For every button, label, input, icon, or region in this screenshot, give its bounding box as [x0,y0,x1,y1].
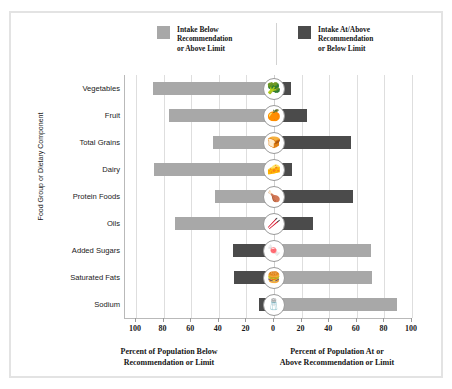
bar-segment-left [153,82,274,95]
bar-segment-left [154,163,274,176]
x-axis-tick-label: 20 [286,324,316,333]
tick-mark [411,318,412,322]
x-axis-tick-label: 80 [148,324,178,333]
protein-icon: 🍗 [263,186,285,208]
added-sugars-icon: 🍬 [263,240,285,262]
saturated-fats-icon: 🍔 [263,267,285,289]
sodium-icon: 🧂 [263,294,285,316]
category-label: Added Sugars [24,246,120,255]
broccoli-icon: 🥦 [263,78,285,100]
x-axis-tick-label: 40 [313,324,343,333]
x-axis-tick-label: 80 [368,324,398,333]
plot-wrapper: Food Group or Dietary Component Vegetabl… [11,13,445,380]
tick-mark [190,318,191,322]
grains-icon: 🍞 [263,132,285,154]
bar-row: 🥦 [125,75,412,102]
bar-segment-right [274,271,372,284]
category-label: Oils [24,219,120,228]
x-axis-tick-label: 40 [203,324,233,333]
tick-mark [245,318,246,322]
bar-row: 🍔 [125,264,412,291]
gridline [412,75,413,318]
tick-mark [383,318,384,322]
bar-row: 🥢 [125,210,412,237]
bar-segment-right [274,298,397,311]
category-label: Protein Foods [24,192,120,201]
bar-segment-left [169,109,274,122]
tick-mark [135,318,136,322]
category-label: Vegetables [24,84,120,93]
x-axis-tick-label: 20 [230,324,260,333]
bar-row: 🍞 [125,129,412,156]
tick-mark [218,318,219,322]
dairy-icon: 🧀 [263,159,285,181]
bar-row: 🍗 [125,183,412,210]
tick-mark [163,318,164,322]
x-axis-tick-label: 100 [120,324,150,333]
bar-row: 🧀 [125,156,412,183]
category-label: Dairy [24,165,120,174]
category-label: Fruit [24,111,120,120]
category-label: Total Grains [24,138,120,147]
fruit-icon: 🍊 [263,105,285,127]
bar-segment-right [274,244,371,257]
tick-mark [356,318,357,322]
tick-mark [273,318,274,322]
x-axis-tick-label: 0 [258,324,288,333]
plot-area: 🥦🍊🍞🧀🍗🥢🍬🍔🧂 [124,75,411,318]
figure-frame: Intake Below Recommendation or Above Lim… [9,11,443,378]
tick-mark [328,318,329,322]
x-axis-tick-label: 100 [396,324,426,333]
x-axis-tick-label: 60 [341,324,371,333]
bar-segment-right [274,136,351,149]
category-label: Sodium [24,300,120,309]
x-axis-line [124,318,411,319]
x-axis-tick-label: 60 [175,324,205,333]
bar-row: 🧂 [125,291,412,318]
bar-segment-left [175,217,274,230]
bar-row: 🍬 [125,237,412,264]
category-label: Saturated Fats [24,273,120,282]
x-axis-caption-right: Percent of Population At or Above Recomm… [247,346,427,368]
x-axis-caption-left: Percent of Population Below Recommendati… [84,346,254,368]
tick-mark [301,318,302,322]
oils-icon: 🥢 [263,213,285,235]
bar-row: 🍊 [125,102,412,129]
bar-segment-right [274,190,353,203]
category-label-column: VegetablesFruitTotal GrainsDairyProtein … [21,75,120,318]
